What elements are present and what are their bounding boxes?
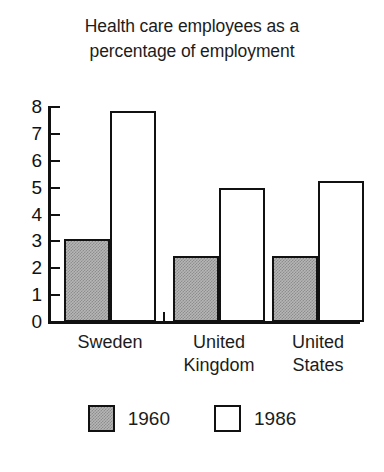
legend-entry-1960[interactable]: 1960 (88, 405, 170, 432)
bar-united-states-1986 (318, 181, 364, 322)
y-axis-tick-label: 1 (16, 285, 42, 304)
legend-entry-1986[interactable]: 1986 (214, 405, 296, 432)
chart-title: Health care employees as a percentage of… (0, 14, 384, 64)
chart-title-line-2: percentage of employment (0, 39, 384, 64)
y-axis-tick-label: 3 (16, 231, 42, 250)
bar-sweden-1986 (110, 111, 156, 322)
category-label-line: United (258, 331, 378, 354)
bar-united-kingdom-1960 (173, 256, 219, 322)
y-axis-tick-label: 4 (16, 205, 42, 224)
bar-united-states-1960 (272, 256, 318, 322)
y-axis-tick-label: 0 (16, 312, 42, 331)
category-label-united-states: UnitedStates (258, 331, 378, 377)
legend-label-1986: 1986 (254, 409, 296, 428)
legend-label-1960: 1960 (128, 409, 170, 428)
legend-swatch-1986 (214, 405, 241, 432)
category-label-sweden: Sweden (50, 331, 170, 354)
legend-swatch-1960 (88, 405, 115, 432)
chart-figure: Health care employees as a percentage of… (0, 0, 384, 472)
bar-sweden-1960 (64, 239, 110, 322)
chart-legend: 19601986 (0, 405, 384, 432)
y-axis-tick-label: 7 (16, 124, 42, 143)
bar-united-kingdom-1986 (219, 188, 265, 322)
y-axis-tick-label: 8 (16, 97, 42, 116)
y-axis-tick-label: 6 (16, 151, 42, 170)
category-label-line: Sweden (50, 331, 170, 354)
category-label-line: States (258, 354, 378, 377)
y-axis-tick-label: 2 (16, 258, 42, 277)
plot-area (48, 107, 360, 322)
chart-title-line-1: Health care employees as a (0, 14, 384, 39)
y-axis-tick-label: 5 (16, 178, 42, 197)
